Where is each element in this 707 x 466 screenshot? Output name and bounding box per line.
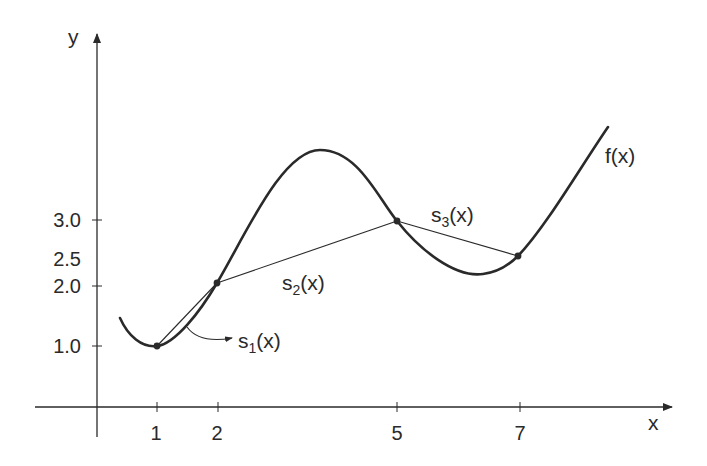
y-tick-label: 1.0 (53, 335, 81, 357)
x-ticks: 1 2 5 7 (150, 402, 525, 444)
knot-point (394, 218, 401, 225)
function-label: f(x) (605, 144, 635, 167)
axes: y x (35, 25, 672, 437)
x-tick-label: 1 (150, 422, 161, 444)
y-tick-label: 2.5 (53, 248, 81, 270)
y-ticks: 1.0 2.0 2.5 3.0 (53, 209, 102, 357)
y-tick-label: 3.0 (53, 209, 81, 231)
knot-point (214, 280, 221, 287)
segment-s3 (397, 221, 518, 256)
segment-label-s3: s3(x) (431, 203, 474, 230)
x-tick-label: 5 (391, 422, 402, 444)
y-tick-label: 2.0 (53, 275, 81, 297)
spline-segments (157, 221, 518, 346)
segment-label-s1: s1(x) (238, 329, 281, 356)
knots (154, 218, 522, 350)
x-tick-label: 2 (211, 422, 222, 444)
x-axis-label: x (648, 411, 659, 434)
x-tick-label: 7 (514, 422, 525, 444)
y-axis-label: y (68, 25, 79, 48)
segment-s1 (157, 283, 217, 346)
segment-label-s2: s2(x) (282, 271, 325, 298)
function-curve (120, 127, 608, 346)
knot-point (154, 343, 161, 350)
knot-point (515, 253, 522, 260)
spline-diagram: y x 1 2 5 7 1.0 2.0 2.5 3.0 (0, 0, 707, 466)
s1-pointer-arrow-icon (187, 327, 232, 340)
